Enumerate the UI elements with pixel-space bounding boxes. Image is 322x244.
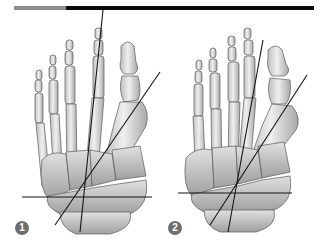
- panel-1-foot: [35, 28, 147, 234]
- foot-skeleton-illustration: [0, 0, 322, 244]
- panel-2-foot: [185, 28, 298, 232]
- panel-2-number-badge: 2: [168, 221, 182, 235]
- panel-1-number-badge: 1: [15, 221, 29, 235]
